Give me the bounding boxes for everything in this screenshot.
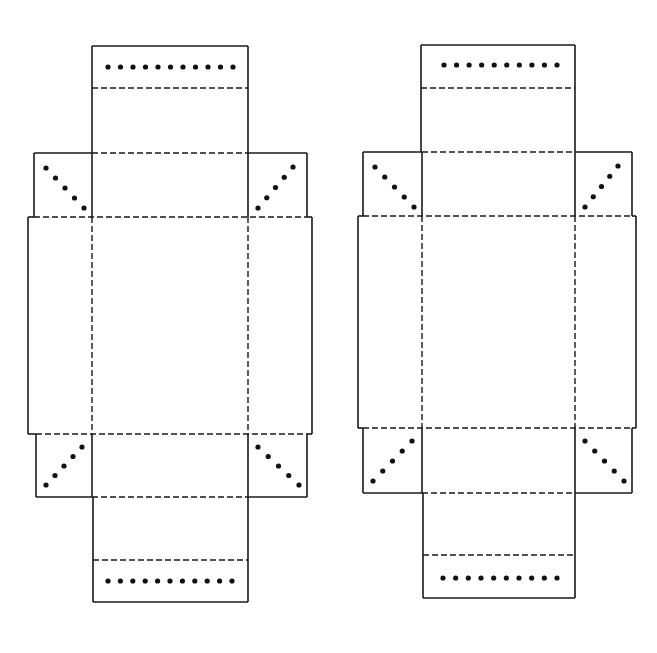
bottom-right-flap-glue-dots xyxy=(255,444,301,487)
glue-dot xyxy=(392,184,397,189)
glue-dot xyxy=(400,448,405,453)
glue-dot xyxy=(466,575,471,580)
glue-dot xyxy=(542,575,547,580)
bottom-tab-glue-dots xyxy=(440,575,559,580)
glue-dot xyxy=(529,575,534,580)
glue-dot xyxy=(217,578,222,583)
glue-dot xyxy=(53,175,58,180)
top-tab-glue-dots xyxy=(441,62,559,67)
glue-dot xyxy=(370,478,375,483)
glue-dot xyxy=(290,164,295,169)
glue-dot xyxy=(143,578,148,583)
glue-dot xyxy=(255,205,260,210)
glue-dot xyxy=(282,175,287,180)
box-net-diagram xyxy=(0,0,657,653)
glue-dot xyxy=(554,62,559,67)
glue-dot xyxy=(372,164,377,169)
glue-dot xyxy=(130,578,135,583)
bottom-tab-glue-dots xyxy=(105,578,234,583)
top-right-flap-glue-dots xyxy=(255,164,295,210)
glue-dot xyxy=(599,184,604,189)
glue-dot xyxy=(516,575,521,580)
glue-dot xyxy=(591,194,596,199)
glue-dot xyxy=(621,478,626,483)
glue-dot xyxy=(81,205,86,210)
glue-dot xyxy=(582,204,587,209)
glue-dot xyxy=(276,463,281,468)
glue-dot xyxy=(411,204,416,209)
glue-dot xyxy=(504,62,509,67)
glue-dot xyxy=(454,62,459,67)
glue-dot xyxy=(105,64,110,69)
glue-dot xyxy=(130,64,135,69)
glue-dot xyxy=(296,482,301,487)
glue-dot xyxy=(180,64,185,69)
glue-dot xyxy=(205,578,210,583)
glue-dot xyxy=(43,165,48,170)
glue-dot xyxy=(478,575,483,580)
glue-dot xyxy=(612,468,617,473)
box-net-left xyxy=(28,46,312,602)
top-left-flap-glue-dots xyxy=(372,164,416,209)
glue-dot xyxy=(167,578,172,583)
glue-dot xyxy=(79,444,84,449)
glue-dot xyxy=(62,185,67,190)
glue-dot xyxy=(602,458,607,463)
top-left-flap-glue-dots xyxy=(43,165,86,210)
glue-dot xyxy=(230,64,235,69)
glue-dot xyxy=(467,62,472,67)
glue-dot xyxy=(592,448,597,453)
box-net-right xyxy=(358,45,636,598)
glue-dot xyxy=(440,575,445,580)
glue-dot xyxy=(218,64,223,69)
glue-dot xyxy=(264,195,269,200)
glue-dot xyxy=(582,438,587,443)
glue-dot xyxy=(143,64,148,69)
glue-dot xyxy=(266,454,271,459)
bottom-left-flap-glue-dots xyxy=(43,444,84,487)
glue-dot xyxy=(380,468,385,473)
glue-dot xyxy=(72,195,77,200)
glue-dot xyxy=(52,473,57,478)
bottom-left-flap-glue-dots xyxy=(370,438,414,483)
glue-dot xyxy=(554,575,559,580)
glue-dot xyxy=(118,64,123,69)
glue-dot xyxy=(409,438,414,443)
glue-dot xyxy=(382,174,387,179)
glue-dot xyxy=(607,174,612,179)
glue-dot xyxy=(529,62,534,67)
glue-dot xyxy=(105,578,110,583)
glue-dot xyxy=(504,575,509,580)
glue-dot xyxy=(402,194,407,199)
glue-dot xyxy=(118,578,123,583)
glue-dot xyxy=(453,575,458,580)
glue-dot xyxy=(273,185,278,190)
top-right-flap-glue-dots xyxy=(582,163,620,209)
glue-dot xyxy=(479,62,484,67)
glue-dot xyxy=(43,482,48,487)
glue-dot xyxy=(286,473,291,478)
glue-dot xyxy=(193,64,198,69)
glue-dot xyxy=(229,578,234,583)
glue-dot xyxy=(441,62,446,67)
glue-dot xyxy=(70,454,75,459)
glue-dot xyxy=(180,578,185,583)
bottom-right-flap-glue-dots xyxy=(582,438,626,483)
glue-dot xyxy=(155,578,160,583)
glue-dot xyxy=(615,163,620,168)
glue-dot xyxy=(61,463,66,468)
glue-dot xyxy=(155,64,160,69)
glue-dot xyxy=(390,458,395,463)
glue-dot xyxy=(491,575,496,580)
glue-dot xyxy=(255,444,260,449)
glue-dot xyxy=(168,64,173,69)
glue-dot xyxy=(517,62,522,67)
glue-dot xyxy=(542,62,547,67)
glue-dot xyxy=(205,64,210,69)
glue-dot xyxy=(492,62,497,67)
top-tab-glue-dots xyxy=(105,64,235,69)
glue-dot xyxy=(192,578,197,583)
